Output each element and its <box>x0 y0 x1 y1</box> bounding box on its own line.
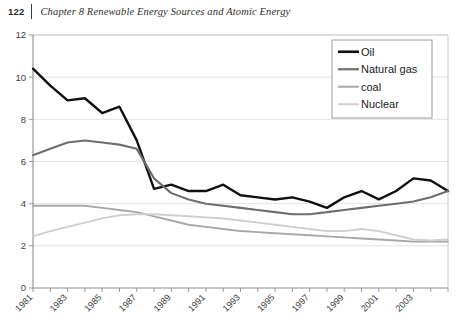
chart-canvas: 024681012 198119831985198719891991199319… <box>0 22 458 335</box>
x-tick-label-1995: 1995 <box>255 292 276 313</box>
series-line-nuclear <box>33 214 448 240</box>
x-axis-tick-labels: 1981198319851987198919911993199519971999… <box>13 292 415 313</box>
footer-caption-partial <box>0 326 458 335</box>
chart-legend: OilNatural gascoalNuclear <box>332 40 432 118</box>
x-tick-label-2003: 2003 <box>394 292 415 313</box>
y-tick-label-12: 12 <box>15 29 26 40</box>
x-tick-label-1989: 1989 <box>152 292 173 313</box>
legend-label-oil: Oil <box>361 46 374 58</box>
y-tick-label-6: 6 <box>21 156 26 167</box>
legend-label-coal: coal <box>361 81 381 93</box>
y-tick-label-10: 10 <box>15 72 26 83</box>
x-tick-label-1981: 1981 <box>13 292 34 313</box>
header-divider <box>31 4 32 19</box>
x-tick-label-1993: 1993 <box>221 292 242 313</box>
x-tick-label-1985: 1985 <box>82 292 103 313</box>
x-tick-label-2001: 2001 <box>359 292 380 313</box>
x-tick-label-1999: 1999 <box>324 292 345 313</box>
y-tick-label-4: 4 <box>21 198 26 209</box>
line-chart: 024681012 198119831985198719891991199319… <box>0 22 458 335</box>
page-number: 122 <box>0 6 24 17</box>
y-tick-label-2: 2 <box>21 240 26 251</box>
y-tick-label-0: 0 <box>21 282 26 293</box>
page-root: 122 Chapter 8 Renewable Energy Sources a… <box>0 0 458 335</box>
y-tick-label-8: 8 <box>21 114 26 125</box>
legend-label-nuclear: Nuclear <box>361 98 399 110</box>
series-line-coal <box>33 206 448 242</box>
x-tick-label-1983: 1983 <box>48 292 69 313</box>
running-header: 122 Chapter 8 Renewable Energy Sources a… <box>0 0 458 22</box>
y-axis-tick-labels: 024681012 <box>15 29 26 293</box>
chapter-title: Chapter 8 Renewable Energy Sources and A… <box>40 6 290 17</box>
series-line-natural-gas <box>33 140 448 214</box>
x-tick-label-1991: 1991 <box>186 292 207 313</box>
legend-label-natural-gas: Natural gas <box>361 63 418 75</box>
x-tick-label-1987: 1987 <box>117 292 138 313</box>
x-tick-label-1997: 1997 <box>290 292 311 313</box>
